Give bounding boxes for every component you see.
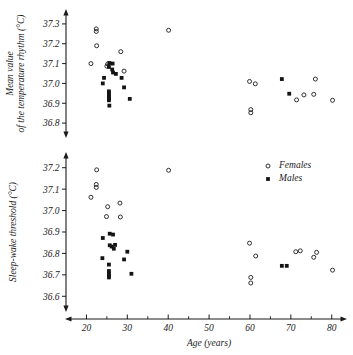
legend-label-females: Females: [278, 160, 311, 170]
x-tick-label-4: 60: [245, 323, 255, 333]
data-point-male-lower-7: [107, 263, 111, 267]
data-point-male-upper-1: [111, 62, 115, 66]
data-point-male-lower-1: [108, 232, 112, 236]
data-point-female-lower-12: [249, 281, 253, 285]
legend-marker-male: [266, 177, 270, 181]
y-tick-label-lower-3: 36.9: [42, 227, 60, 237]
figure-scatter-panels: 36.836.937.037.137.237.3Mean valueof the…: [0, 0, 353, 355]
data-point-female-lower-14: [298, 249, 302, 253]
y-axis-arrow-bottom-upper: [63, 132, 68, 139]
x-tick-label-2: 40: [163, 323, 173, 333]
data-point-female-upper-3: [89, 62, 93, 66]
data-point-male-upper-17: [128, 97, 132, 101]
series-lower-females: [89, 168, 335, 285]
data-point-female-upper-14: [302, 93, 306, 97]
data-point-male-lower-0: [101, 236, 105, 240]
data-point-female-upper-6: [119, 50, 123, 54]
y-tick-label-lower-5: 37.1: [42, 185, 60, 195]
data-point-female-upper-9: [248, 79, 252, 83]
series-lower-males: [100, 232, 288, 280]
y-tick-label-lower-2: 36.8: [42, 249, 60, 259]
y-axis-title-upper-0: Mean value: [5, 51, 15, 97]
data-point-female-lower-8: [167, 168, 171, 172]
y-tick-label-lower-6: 37.2: [42, 163, 60, 173]
data-point-female-upper-16: [313, 77, 317, 81]
data-point-male-lower-6: [100, 256, 104, 260]
figure-canvas: 36.836.937.037.137.237.3Mean valueof the…: [0, 0, 353, 355]
data-point-male-lower-14: [122, 258, 126, 262]
y-tick-label-lower-0: 36.6: [42, 292, 60, 302]
data-point-female-lower-10: [254, 254, 258, 258]
x-axis: 20304050607080Age (years): [65, 315, 347, 350]
data-point-female-upper-17: [331, 98, 335, 102]
data-point-male-lower-11: [107, 276, 111, 280]
legend-marker-female: [266, 164, 270, 168]
legend-label-males: Males: [278, 173, 303, 183]
data-point-male-lower-15: [130, 272, 134, 276]
data-point-male-upper-19: [287, 92, 291, 96]
x-axis-title: Age (years): [186, 338, 231, 349]
y-tick-label-upper-1: 36.9: [42, 99, 60, 109]
data-point-male-upper-16: [122, 85, 126, 89]
data-point-male-lower-5: [113, 243, 117, 247]
y-axis-title-upper-1: of the temperature rhythm (°C): [16, 15, 27, 133]
x-tick-label-1: 30: [122, 323, 133, 333]
data-point-female-upper-7: [122, 69, 126, 73]
data-point-male-lower-2: [111, 233, 115, 237]
data-point-female-lower-15: [312, 255, 316, 259]
y-axis-arrow-top-lower: [63, 152, 68, 159]
x-tick-label-6: 80: [327, 323, 337, 333]
y-tick-label-upper-2: 37.0: [42, 79, 60, 89]
y-tick-label-lower-1: 36.7: [42, 270, 61, 280]
data-point-female-lower-11: [249, 275, 253, 279]
x-axis-arrow-left: [65, 316, 72, 321]
data-point-male-upper-5: [114, 72, 118, 76]
y-tick-label-upper-5: 37.3: [42, 19, 60, 29]
data-point-female-lower-9: [248, 241, 252, 245]
series-upper-males: [101, 61, 291, 107]
data-point-female-upper-15: [312, 92, 316, 96]
data-point-female-lower-17: [331, 268, 335, 272]
data-point-male-upper-13: [107, 98, 111, 102]
data-point-female-lower-13: [294, 250, 298, 254]
data-point-male-upper-14: [107, 104, 111, 108]
data-point-male-lower-16: [280, 264, 284, 268]
legend: FemalesMales: [266, 160, 311, 183]
x-axis-arrow-right: [341, 316, 348, 321]
data-point-male-upper-7: [101, 82, 105, 86]
data-point-male-upper-6: [102, 76, 106, 80]
y-tick-label-upper-0: 36.8: [42, 118, 60, 128]
y-axis-arrow-top-upper: [63, 9, 68, 16]
data-point-female-upper-8: [167, 28, 171, 32]
data-point-female-lower-5: [104, 215, 108, 219]
data-point-female-lower-4: [106, 205, 110, 209]
y-tick-label-upper-3: 37.1: [42, 59, 60, 69]
data-point-female-upper-10: [253, 82, 257, 86]
data-point-female-lower-0: [95, 168, 99, 172]
y-tick-label-lower-4: 37.0: [42, 206, 60, 216]
data-point-male-lower-13: [125, 250, 129, 254]
data-point-female-lower-6: [118, 201, 122, 205]
y-axis-title-lower-0: Sleep-wake threshold (°C): [8, 182, 19, 282]
data-point-female-upper-2: [95, 44, 99, 48]
panel-upper: 36.836.937.037.137.237.3Mean valueof the…: [5, 9, 335, 138]
data-point-male-upper-0: [107, 61, 111, 65]
data-point-male-upper-2: [107, 65, 111, 69]
data-point-female-upper-13: [295, 98, 299, 102]
series-upper-females: [89, 27, 335, 115]
y-axis-arrow-bottom-lower: [63, 306, 68, 313]
x-tick-label-5: 70: [286, 323, 296, 333]
data-point-female-lower-7: [118, 215, 122, 219]
data-point-male-upper-15: [120, 76, 124, 80]
x-tick-label-0: 20: [82, 323, 92, 333]
x-tick-label-3: 50: [204, 323, 214, 333]
data-point-male-upper-18: [280, 77, 284, 81]
data-point-male-lower-17: [285, 264, 289, 268]
data-point-male-lower-12: [112, 247, 116, 251]
data-point-female-upper-1: [94, 29, 98, 33]
data-point-female-lower-3: [89, 195, 93, 199]
y-tick-label-upper-4: 37.2: [42, 39, 60, 49]
data-point-female-lower-16: [315, 250, 319, 254]
